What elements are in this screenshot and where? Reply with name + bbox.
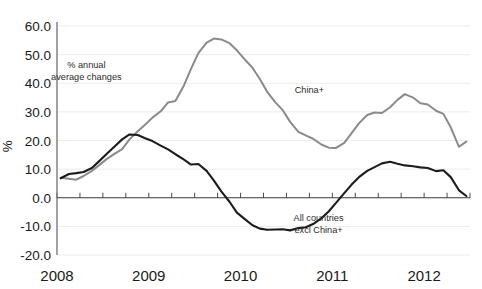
x-tick-label: 2009: [132, 267, 165, 284]
y-tick-label: 50.0: [25, 48, 51, 63]
units-note-line2: average changes: [51, 72, 122, 82]
x-axis-tick-labels-group: 20082009201020112012: [40, 267, 440, 284]
y-axis-tick-labels-group: 60.050.040.030.020.010.00.0-10.0-20.0: [20, 19, 51, 263]
axes-group: [57, 22, 470, 255]
series-line-china-plus: [61, 39, 467, 180]
line-chart: 60.050.040.030.020.010.00.0-10.0-20.0 20…: [0, 0, 482, 289]
data-series-group: [61, 39, 467, 231]
y-tick-label: 60.0: [25, 19, 51, 34]
y-tick-label: 40.0: [25, 76, 51, 91]
y-tick-label: 10.0: [25, 162, 51, 177]
chart-container: 60.050.040.030.020.010.00.0-10.0-20.0 20…: [0, 0, 482, 289]
xaxis-tickmarks-group: [57, 193, 470, 198]
x-tick-label: 2010: [224, 267, 257, 284]
y-tick-label: -10.0: [20, 219, 51, 234]
units-note-line1: % annual: [67, 60, 105, 70]
y-tick-label: 20.0: [25, 134, 51, 149]
gridlines-group: [57, 26, 470, 255]
china-plus-series-label: China+: [295, 85, 324, 95]
annotations-group: % annual average changes China+ All coun…: [51, 60, 344, 235]
all-countries-series-label-line2: excl China+: [294, 225, 342, 235]
y-tick-label: 30.0: [25, 105, 51, 120]
x-tick-label: 2012: [407, 267, 440, 284]
y-tick-label: -20.0: [20, 248, 51, 263]
x-tick-label: 2011: [316, 267, 348, 284]
all-countries-series-label-line1: All countries: [294, 213, 344, 223]
y-axis-title: %: [0, 140, 15, 152]
y-tick-label: 0.0: [32, 191, 51, 206]
x-tick-label: 2008: [40, 267, 73, 284]
